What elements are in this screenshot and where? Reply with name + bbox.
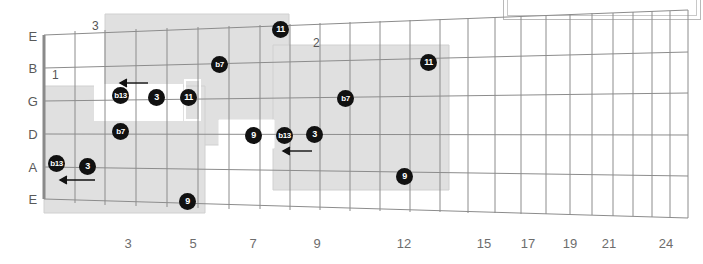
fret-number-3: 3 bbox=[116, 236, 140, 251]
note-marker-b7: b7 bbox=[112, 123, 129, 140]
string-label-G: G bbox=[26, 94, 40, 109]
note-marker-11: 11 bbox=[272, 21, 289, 38]
fret-number-24: 24 bbox=[654, 236, 678, 251]
note-marker-b13: b13 bbox=[276, 127, 293, 144]
note-marker-b13: b13 bbox=[48, 155, 65, 172]
string-label-D: D bbox=[26, 127, 40, 142]
note-marker-b7: b7 bbox=[211, 56, 228, 73]
fret-number-9: 9 bbox=[305, 236, 329, 251]
fretboard-diagram: E B G D A E 1 3 2 b133b7b133119b7119b133… bbox=[0, 0, 703, 264]
region-connector-a bbox=[95, 85, 182, 120]
fret-number-7: 7 bbox=[241, 236, 265, 251]
position-box-label-3: 3 bbox=[92, 19, 99, 33]
note-marker-9: 9 bbox=[179, 193, 196, 210]
fret-number-17: 17 bbox=[516, 236, 540, 251]
position-box-label-1: 1 bbox=[52, 68, 59, 82]
position-box-label-2: 2 bbox=[313, 36, 320, 50]
fret-number-15: 15 bbox=[472, 236, 496, 251]
fret-number-21: 21 bbox=[597, 236, 621, 251]
string-label-A: A bbox=[26, 160, 40, 175]
note-marker-11: 11 bbox=[180, 89, 197, 106]
note-marker-11: 11 bbox=[420, 54, 437, 71]
string-label-E-high: E bbox=[26, 29, 40, 44]
note-marker-b13: b13 bbox=[112, 87, 129, 104]
fret-number-19: 19 bbox=[558, 236, 582, 251]
fretboard-canvas bbox=[0, 0, 703, 264]
note-marker-3: 3 bbox=[148, 89, 165, 106]
note-marker-9: 9 bbox=[245, 127, 262, 144]
string-label-E-low: E bbox=[26, 192, 40, 207]
note-marker-b7: b7 bbox=[337, 90, 354, 107]
note-marker-9: 9 bbox=[396, 168, 413, 185]
fret-number-5: 5 bbox=[181, 236, 205, 251]
fret-number-12: 12 bbox=[392, 236, 416, 251]
string-label-B: B bbox=[26, 61, 40, 76]
note-marker-3: 3 bbox=[79, 158, 96, 175]
note-marker-3: 3 bbox=[306, 126, 323, 143]
